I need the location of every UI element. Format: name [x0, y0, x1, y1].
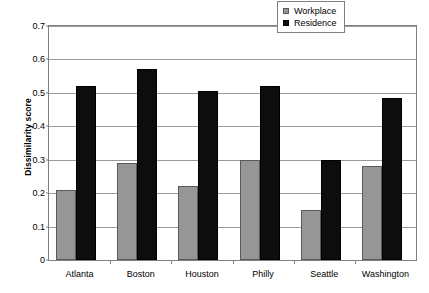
y-axis-tick-label: 0.4 [32, 121, 45, 131]
x-axis-tick-mark [110, 260, 111, 264]
legend-swatch-icon [283, 8, 289, 14]
bar-chart: Dissimilarity score 00.10.20.30.40.50.60… [0, 0, 429, 293]
bar-group [110, 26, 171, 260]
bar-workplace-houston [178, 186, 198, 260]
y-axis-tick-label: 0.6 [32, 54, 45, 64]
x-axis-tick-label: Boston [127, 269, 155, 279]
bar-residence-philly [260, 86, 280, 260]
legend-item: Residence [283, 17, 337, 29]
y-axis-tick-label: 0.1 [32, 222, 45, 232]
x-axis-tick-label: Atlanta [66, 269, 94, 279]
bar-group [49, 26, 110, 260]
bar-workplace-washington [362, 166, 382, 260]
x-axis-tick-mark [233, 260, 234, 264]
bar-group [355, 26, 416, 260]
y-axis-tick-label: 0.5 [32, 88, 45, 98]
legend-item-label: Workplace [294, 7, 336, 16]
bar-residence-houston [198, 91, 218, 260]
bar-workplace-atlanta [56, 190, 76, 260]
bars-layer [49, 26, 416, 260]
bar-group [171, 26, 232, 260]
bar-residence-seattle [321, 160, 341, 260]
legend-item-label: Residence [294, 19, 337, 28]
bar-group [233, 26, 294, 260]
bar-workplace-philly [240, 160, 260, 260]
x-axis-tick-label: Houston [185, 269, 219, 279]
legend-item: Workplace [283, 5, 337, 17]
bar-residence-boston [137, 69, 157, 260]
x-axis-tick-label: Seattle [310, 269, 338, 279]
plot-area: 00.10.20.30.40.50.60.7 AtlantaBostonHous… [48, 25, 417, 261]
x-axis-tick-label: Philly [252, 269, 274, 279]
x-axis-tick-mark [171, 260, 172, 264]
bar-workplace-seattle [301, 210, 321, 260]
bar-residence-washington [382, 98, 402, 260]
y-axis-tick-label: 0 [40, 255, 45, 265]
y-axis-tick-label: 0.7 [32, 21, 45, 31]
y-axis-tick-label: 0.3 [32, 155, 45, 165]
x-axis-tick-mark [355, 260, 356, 264]
bar-workplace-boston [117, 163, 137, 260]
chart-legend: WorkplaceResidence [277, 1, 345, 33]
bar-group [294, 26, 355, 260]
x-axis-tick-label: Washington [362, 269, 409, 279]
x-axis-tick-mark [294, 260, 295, 264]
legend-swatch-icon [283, 20, 289, 26]
bar-residence-atlanta [76, 86, 96, 260]
y-axis-tick-label: 0.2 [32, 188, 45, 198]
